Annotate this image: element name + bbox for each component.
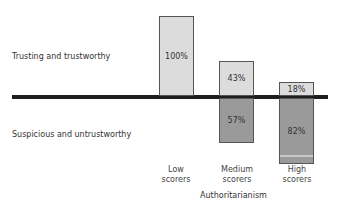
bar-high-trusting: 18% (279, 82, 314, 96)
bar-medium-suspicious: 57% (219, 98, 254, 143)
category-line: Medium (212, 165, 262, 175)
bar-medium-trusting: 43% (219, 61, 254, 96)
category-line: scorers (151, 175, 201, 185)
value-label: 43% (228, 74, 246, 83)
category-medium: Medium scorers (212, 165, 262, 185)
category-line: High (272, 165, 322, 175)
x-axis-title: Authoritarianism (200, 191, 267, 200)
category-line: scorers (272, 175, 322, 185)
value-label: 57% (228, 116, 246, 125)
category-line: Low (151, 165, 201, 175)
value-label: 100% (165, 52, 188, 61)
category-line: scorers (212, 175, 262, 185)
row-label-trusting: Trusting and trustworthy (12, 52, 110, 61)
bar-high-suspicious: 82% (279, 98, 314, 164)
bar-low-trusting: 100% (159, 16, 194, 96)
category-low: Low scorers (151, 165, 201, 185)
value-label: 82% (288, 127, 306, 136)
bar-stripe (280, 155, 313, 157)
row-label-suspicious: Suspicious and untrustworthy (12, 130, 131, 139)
value-label: 18% (288, 85, 306, 94)
category-high: High scorers (272, 165, 322, 185)
